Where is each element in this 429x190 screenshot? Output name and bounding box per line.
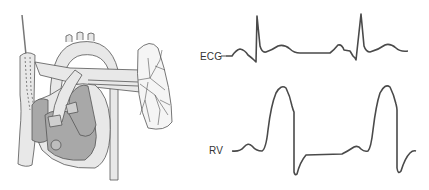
arch-branch-1 [66, 35, 72, 43]
ecg-waveform [226, 14, 408, 62]
lung [137, 43, 172, 129]
arch-branch-2 [77, 32, 83, 40]
tricuspid-valve [51, 140, 61, 150]
rv-label: RV [209, 145, 223, 156]
ecg-label: ECG [200, 51, 222, 62]
rv-pressure-waveform [232, 86, 416, 175]
catheter-wire [22, 15, 26, 55]
pulmonary-valve [48, 115, 62, 127]
heart-illustration [18, 15, 172, 180]
heart-diagram [0, 0, 429, 190]
arch-branch-3 [88, 33, 94, 41]
